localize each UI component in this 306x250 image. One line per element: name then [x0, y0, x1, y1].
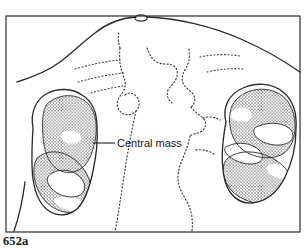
radiograph-tracing-plate: Central mass	[0, 0, 306, 250]
tracing-svg: Central mass	[0, 0, 306, 250]
central-mass-label: Central mass	[117, 137, 182, 149]
figure-label-bottom: 652a	[3, 235, 28, 248]
figure-root: 651a	[0, 0, 306, 250]
